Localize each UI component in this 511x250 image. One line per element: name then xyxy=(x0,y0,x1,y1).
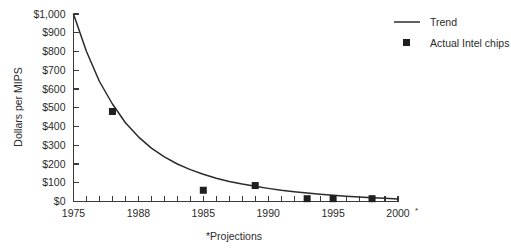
chart-legend: Trend Actual Intel chips xyxy=(394,16,509,49)
x-tick-label-asterisk: * xyxy=(415,206,418,215)
trend-line-series xyxy=(74,14,399,199)
legend-square-marker-icon xyxy=(403,39,410,46)
legend-label-actual-intel-chips: Actual Intel chips xyxy=(430,37,509,49)
y-tick-label: $200 xyxy=(42,158,66,170)
y-tick-label: $900 xyxy=(42,26,66,38)
y-tick-label: $1,000 xyxy=(33,8,65,20)
x-tick-label: 1975 xyxy=(62,207,86,219)
data-point-marker xyxy=(252,182,259,189)
y-axis-tick-labels: $0$100$200$300$400$500$600$700$800$900$1… xyxy=(33,8,65,208)
y-tick-label: $100 xyxy=(42,176,66,188)
y-tick-label: $0 xyxy=(54,195,66,207)
data-point-marker xyxy=(330,195,337,202)
x-tick-label: 1985 xyxy=(192,207,216,219)
y-axis-title: Dollars per MIPS xyxy=(12,67,24,146)
y-tick-label: $800 xyxy=(42,45,66,57)
y-tick-label: $400 xyxy=(42,120,66,132)
data-point-marker xyxy=(200,187,207,194)
y-axis-tick-marks xyxy=(74,14,79,202)
data-point-marker xyxy=(109,108,116,115)
chart-figure: $0$100$200$300$400$500$600$700$800$900$1… xyxy=(0,0,511,250)
x-tick-label: 1990 xyxy=(257,207,281,219)
y-tick-label: $600 xyxy=(42,83,66,95)
y-tick-label: $700 xyxy=(42,64,66,76)
chart-plot-area: $0$100$200$300$400$500$600$700$800$900$1… xyxy=(0,0,511,250)
actual-intel-chips-series xyxy=(109,108,376,202)
x-axis-tick-labels: 197519881985199019952000* xyxy=(62,206,418,219)
data-point-marker xyxy=(369,195,376,202)
data-point-marker xyxy=(304,195,311,202)
y-tick-label: $500 xyxy=(42,101,66,113)
chart-footnote: *Projections xyxy=(206,230,262,242)
x-tick-label: 2000 xyxy=(386,207,410,219)
legend-label-trend: Trend xyxy=(430,16,457,28)
x-tick-label: 1988 xyxy=(127,207,151,219)
x-tick-label: 1995 xyxy=(321,207,345,219)
y-tick-label: $300 xyxy=(42,139,66,151)
